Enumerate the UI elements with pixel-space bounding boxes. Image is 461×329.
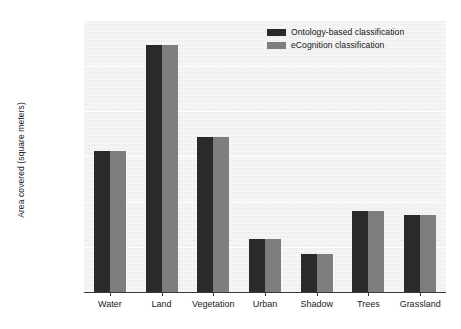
bar[interactable] [352,211,368,292]
legend-item-ecognition[interactable]: eCognition classification [267,40,404,50]
bar[interactable] [301,254,317,292]
bar[interactable] [146,45,162,292]
bar-group [352,20,384,292]
x-axis-label-grassland: Grassland [375,299,461,309]
legend-label-ecognition: eCognition classification [291,40,384,50]
bars-layer [84,20,446,292]
bar[interactable] [94,151,110,292]
y-axis-title: Area covered (square meters) [16,65,26,255]
bar[interactable] [265,239,281,292]
bar[interactable] [110,151,126,292]
bar[interactable] [420,215,436,292]
legend-item-ontology[interactable]: Ontology-based classification [267,27,404,37]
bar[interactable] [162,45,178,292]
legend-swatch-icon-ecognition [267,42,286,49]
bar[interactable] [368,211,384,292]
legend: Ontology-based classification eCognition… [267,27,404,50]
x-axis-tick-mark [317,292,318,296]
bar[interactable] [404,215,420,292]
bar-group [404,20,436,292]
legend-label-ontology: Ontology-based classification [291,27,404,37]
x-axis-tick-mark [110,292,111,296]
bar[interactable] [197,137,213,292]
bar-chart: Area covered (square meters) 0500,0001,0… [0,0,461,329]
bar-group [197,20,229,292]
bar-group [249,20,281,292]
x-axis-tick-mark [213,292,214,296]
x-axis-tick-mark [162,292,163,296]
bar-group [94,20,126,292]
bar[interactable] [249,239,265,292]
x-axis-tick-mark [368,292,369,296]
x-axis-tick-mark [265,292,266,296]
legend-swatch-icon-ontology [267,29,286,36]
x-axis-tick-mark [420,292,421,296]
bar[interactable] [317,254,333,292]
plot-area [84,20,446,292]
bar[interactable] [213,137,229,292]
bar-group [301,20,333,292]
bar-group [146,20,178,292]
